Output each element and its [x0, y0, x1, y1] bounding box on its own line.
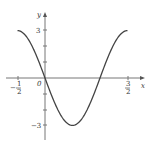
y-tick-label-neg3: −3: [31, 122, 41, 130]
svg-text:1: 1: [17, 80, 21, 88]
svg-text:2: 2: [17, 88, 21, 96]
svg-text:3: 3: [126, 80, 130, 88]
chart-canvas: y x 3 −3 0 − 1 2 3 2: [0, 0, 150, 142]
x-axis-label: x: [141, 82, 145, 90]
x-axis: [6, 76, 145, 80]
x-axis-arrow-icon: [140, 76, 145, 80]
svg-text:2: 2: [126, 88, 130, 96]
origin-label: 0: [37, 80, 42, 88]
svg-text:−: −: [10, 84, 16, 92]
y-axis-arrow-icon: [43, 12, 47, 17]
x-tick-label-neg-half: − 1 2: [10, 80, 21, 96]
y-axis-label: y: [36, 11, 42, 19]
y-tick-label-3: 3: [36, 27, 40, 35]
x-tick-label-three-halves: 3 2: [125, 80, 130, 96]
